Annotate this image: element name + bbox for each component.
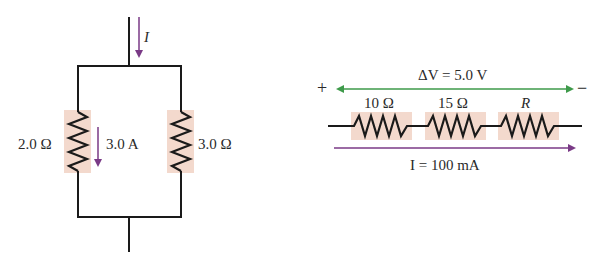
minus-sign: −: [577, 78, 587, 98]
voltage-label: ΔV = 5.0 V: [418, 67, 487, 83]
parallel-wires: [78, 17, 181, 252]
main-current-label: I: [143, 29, 150, 45]
left-resistor-label: 2.0 Ω: [18, 136, 52, 152]
plus-sign: +: [317, 78, 327, 98]
parallel-circuit: I 2.0 Ω 3.0 A 3.0 Ω: [18, 17, 232, 252]
resistor-10-label: 10 Ω: [364, 95, 394, 111]
series-circuit: + − ΔV = 5.0 V 10 Ω 15 Ω R I = 100 mA: [317, 67, 587, 173]
circuit-diagrams: I 2.0 Ω 3.0 A 3.0 Ω + − ΔV = 5.0 V 10 Ω …: [0, 0, 614, 256]
resistor-15-label: 15 Ω: [438, 95, 468, 111]
series-current-label: I = 100 mA: [410, 157, 480, 173]
right-resistor-label: 3.0 Ω: [198, 136, 232, 152]
branch-current-label: 3.0 A: [106, 136, 139, 152]
resistor-r-label: R: [520, 95, 530, 111]
